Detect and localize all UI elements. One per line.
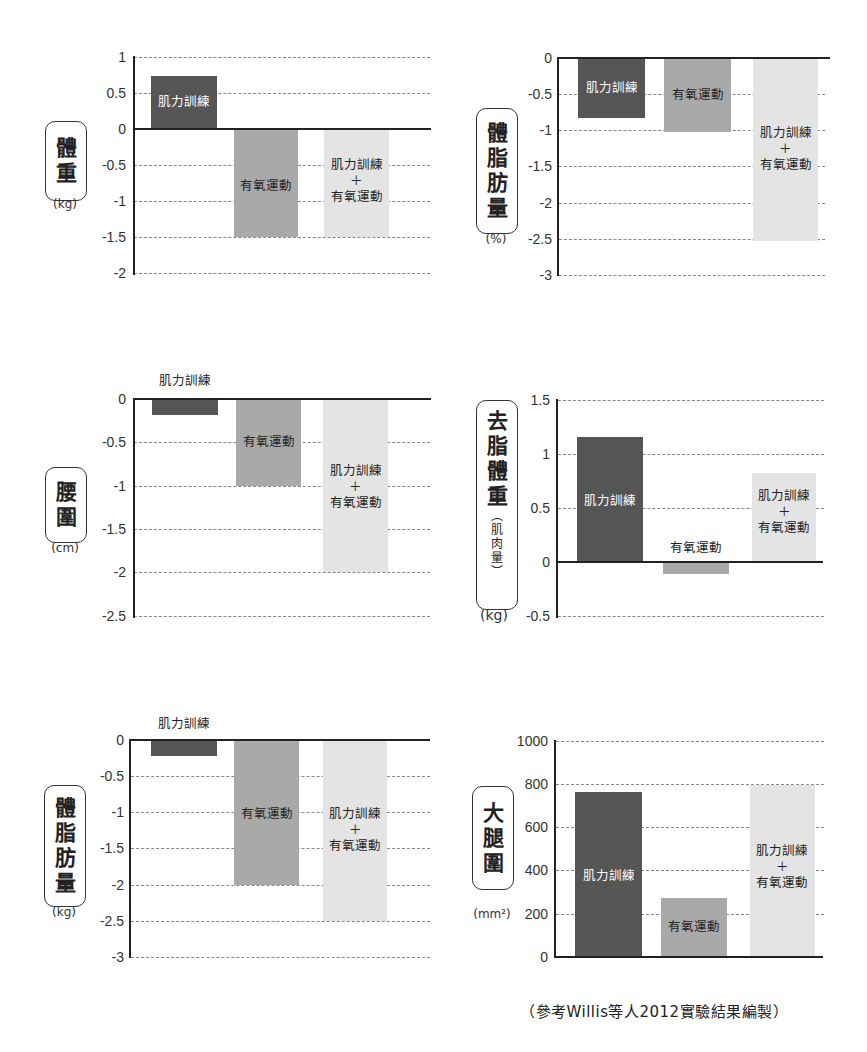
title-char: 體	[487, 121, 508, 146]
y-tick: -0.5	[86, 157, 126, 173]
title-char: 體	[56, 136, 77, 161]
gridline	[558, 400, 824, 401]
zero-baseline	[133, 128, 431, 130]
bar-label-strength: 肌力訓練	[573, 493, 647, 509]
y-tick: -1.5	[84, 840, 124, 856]
y-tick: -1	[86, 478, 126, 494]
title-char: 量	[55, 871, 76, 896]
y-tick: -1	[86, 193, 126, 209]
bar-label-aerobic: 有氧運動	[660, 87, 735, 103]
y-tick: -1	[512, 122, 552, 138]
title-char: 脂	[55, 821, 76, 846]
y-axis-title-box: 腰 圍	[45, 467, 87, 543]
title-char: 體	[487, 459, 508, 484]
y-tick: -2	[84, 877, 124, 893]
y-tick: 200	[506, 906, 548, 922]
title-char: 脂	[487, 146, 508, 171]
title-char: 脂	[487, 434, 508, 459]
bar-strength	[151, 740, 217, 756]
y-axis-title-box: 體 脂 肪 量	[44, 785, 86, 907]
y-tick: -2.5	[512, 231, 552, 247]
bar-label-combined: 肌力訓練 ＋ 有氧運動	[744, 843, 820, 891]
zero-baseline	[133, 398, 431, 400]
title-char: 肪	[55, 846, 76, 871]
y-tick: -0.5	[510, 608, 550, 624]
y-axis-unit: (%)	[476, 232, 516, 246]
title-char: 去	[487, 409, 508, 434]
y-tick: 1	[86, 49, 126, 65]
y-axis	[129, 739, 131, 958]
y-tick: 0	[84, 732, 124, 748]
y-axis	[554, 740, 556, 958]
bar-label-aerobic: 有氧運動	[229, 178, 303, 194]
y-axis-title-box: 體 重	[45, 121, 87, 201]
bar-label-aerobic: 有氧運動	[656, 919, 732, 935]
bar-label-aerobic: 有氧運動	[658, 540, 734, 556]
y-axis-unit: (cm)	[45, 541, 85, 555]
y-axis-unit: (kg)	[474, 607, 514, 623]
y-tick: -0.5	[84, 768, 124, 784]
title-char: 重	[56, 161, 77, 186]
y-tick: -2	[512, 195, 552, 211]
y-tick: 0	[86, 391, 126, 407]
y-axis	[133, 398, 135, 618]
bar-aerobic	[663, 562, 729, 574]
gridline	[558, 616, 824, 617]
bar-label-strength: 肌力訓練	[578, 80, 645, 96]
zero-baseline	[130, 739, 430, 741]
y-tick: 0	[512, 50, 552, 66]
title-char: 腰	[56, 480, 77, 505]
title-subchar: ︶	[491, 565, 503, 579]
gridline	[559, 275, 825, 276]
gridline	[134, 57, 430, 58]
bar-label-strength: 肌力訓練	[147, 716, 221, 732]
y-tick: -3	[84, 949, 124, 965]
bar-label-combined: 肌力訓練 ＋ 有氧運動	[746, 488, 822, 536]
y-tick: 800	[506, 776, 548, 792]
y-tick: 400	[506, 862, 548, 878]
title-char: 重	[487, 484, 508, 509]
zero-baseline	[554, 956, 823, 958]
y-tick: 1000	[506, 733, 548, 749]
bar-label-combined: 肌力訓練 ＋ 有氧運動	[319, 157, 394, 205]
title-subchar: 肉	[491, 537, 503, 551]
bar-label-strength: 肌力訓練	[571, 868, 646, 884]
y-tick: 600	[506, 819, 548, 835]
bar-label-combined: 肌力訓練 ＋ 有氧運動	[318, 463, 393, 511]
y-tick: -2.5	[84, 913, 124, 929]
y-axis	[133, 56, 135, 275]
y-tick: 1.5	[510, 392, 550, 408]
title-char: 圍	[483, 851, 504, 876]
bar-label-combined: 肌力訓練 ＋ 有氧運動	[748, 125, 823, 173]
y-tick: -2	[86, 265, 126, 281]
y-tick: 1	[510, 446, 550, 462]
gridline	[134, 237, 430, 238]
y-tick: -0.5	[86, 434, 126, 450]
y-tick: 0.5	[510, 500, 550, 516]
zero-baseline	[558, 57, 830, 59]
gridline	[131, 921, 430, 922]
gridline	[134, 616, 430, 617]
bar-label-aerobic: 有氧運動	[231, 434, 306, 450]
y-axis-unit: (kg)	[45, 197, 85, 211]
y-tick: -2	[86, 564, 126, 580]
bar-strength	[152, 399, 218, 415]
gridline	[134, 572, 430, 573]
y-axis	[557, 57, 559, 276]
title-char: 量	[487, 196, 508, 221]
title-subchar: 肌	[491, 523, 503, 537]
y-tick: -1.5	[86, 229, 126, 245]
bar-label-strength: 肌力訓練	[148, 373, 222, 389]
y-tick: -0.5	[512, 86, 552, 102]
y-tick: 0.5	[86, 85, 126, 101]
title-char: 體	[55, 796, 76, 821]
zero-baseline	[557, 561, 823, 563]
title-subchar: ︵	[491, 509, 503, 523]
title-char: 大	[483, 801, 504, 826]
title-char: 圍	[56, 505, 77, 530]
y-tick: 0	[510, 554, 550, 570]
y-tick: -2.5	[86, 608, 126, 624]
source-note: （參考Willis等人2012實驗結果編製）	[520, 1000, 788, 1021]
bar-label-combined: 肌力訓練 ＋ 有氧運動	[317, 806, 393, 854]
y-tick: -1.5	[86, 521, 126, 537]
